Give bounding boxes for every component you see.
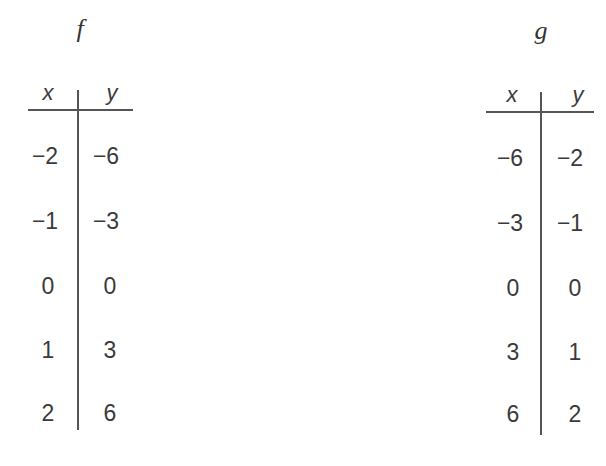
cell-x: 0	[42, 273, 55, 300]
header-x: x	[43, 80, 54, 106]
header-rule	[28, 109, 133, 111]
cell-y: −1	[557, 210, 583, 237]
table-title: g	[535, 16, 548, 46]
cell-x: −2	[32, 143, 58, 170]
cell-y: 1	[569, 339, 582, 366]
cell-y: 6	[104, 400, 117, 427]
cell-x: 6	[507, 401, 520, 428]
cell-x: 1	[42, 337, 55, 364]
column-divider	[77, 90, 79, 430]
cell-x: 2	[42, 400, 55, 427]
cell-y: −2	[557, 145, 583, 172]
header-y: y	[573, 82, 584, 108]
column-divider	[540, 92, 542, 435]
cell-y: 0	[104, 273, 117, 300]
cell-y: 0	[569, 275, 582, 302]
cell-x: −1	[32, 208, 58, 235]
header-x: x	[507, 82, 518, 108]
cell-y: 3	[104, 337, 117, 364]
cell-y: −3	[93, 208, 119, 235]
table-title: f	[76, 14, 83, 44]
cell-x: −6	[497, 145, 523, 172]
cell-x: −3	[497, 210, 523, 237]
cell-x: 3	[507, 339, 520, 366]
cell-x: 0	[507, 275, 520, 302]
cell-y: 2	[569, 401, 582, 428]
header-y: y	[107, 80, 118, 106]
cell-y: −6	[93, 143, 119, 170]
